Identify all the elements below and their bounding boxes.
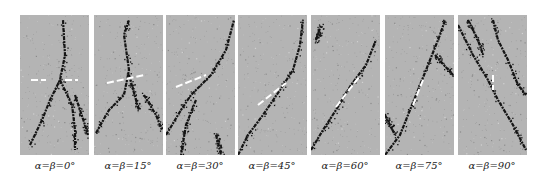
crack-fragment [32, 139, 33, 140]
speckle [222, 75, 223, 76]
crack-fragment [218, 135, 219, 136]
crack-fragment [251, 135, 252, 136]
speckle [192, 101, 193, 102]
speckle [437, 70, 438, 71]
speckle [282, 107, 283, 108]
speckle [348, 44, 349, 45]
crack-fragment [72, 126, 73, 127]
speckle [168, 151, 169, 152]
speckle [525, 56, 526, 57]
crack-fragment [112, 106, 113, 107]
crack-fragment [61, 35, 62, 36]
speckle [66, 86, 67, 87]
crack-fragment [136, 106, 137, 107]
crack-fragment [76, 98, 77, 99]
speckle [30, 38, 31, 39]
speckle [100, 59, 101, 60]
crack-fragment [447, 68, 448, 69]
speckle [417, 58, 418, 59]
speckle [270, 71, 271, 72]
crack-fragment [391, 121, 392, 122]
crack-fragment [289, 72, 290, 73]
speckle [376, 31, 377, 32]
speckle [512, 146, 513, 147]
speckle [389, 96, 390, 97]
crack-fragment [438, 39, 439, 40]
speckle [446, 131, 447, 132]
crack-fragment [443, 20, 444, 21]
speckle [434, 28, 435, 29]
speckle [354, 151, 355, 152]
speckle [397, 95, 398, 96]
speckle [316, 56, 317, 57]
speckle [273, 58, 274, 59]
crack-fragment [405, 130, 406, 131]
speckle [191, 37, 192, 38]
speckle [187, 63, 188, 64]
speckle [64, 108, 65, 109]
crack-fragment [283, 89, 284, 90]
crack-fragment [129, 28, 130, 29]
speckle [421, 25, 422, 26]
crack-fragment [408, 109, 409, 110]
speckle [498, 20, 499, 21]
speckle [353, 64, 354, 65]
crack-fragment [64, 66, 65, 67]
speckle [250, 36, 251, 37]
speckle [515, 93, 516, 94]
speckle [403, 112, 404, 113]
speckle [428, 101, 429, 102]
speckle [59, 40, 60, 41]
speckle [160, 67, 161, 68]
speckle [422, 109, 423, 110]
speckle [123, 138, 124, 139]
speckle [434, 39, 435, 40]
speckle [174, 54, 175, 55]
speckle [181, 138, 182, 139]
speckle [131, 26, 132, 27]
speckle [345, 107, 346, 108]
speckle [475, 95, 476, 96]
speckle [59, 100, 60, 101]
speckle [119, 67, 120, 68]
speckle [304, 129, 305, 130]
crack-fragment [72, 111, 73, 112]
speckle [499, 147, 500, 148]
crack-fragment [315, 41, 316, 42]
crack-fragment [63, 89, 64, 90]
crack-fragment [343, 102, 344, 103]
speckle [316, 60, 317, 61]
speckle [294, 118, 295, 119]
crack-fragment [58, 83, 59, 84]
crack-fragment [395, 135, 396, 136]
speckle [152, 28, 153, 29]
speckle [406, 97, 407, 98]
speckle [260, 40, 261, 41]
speckle [58, 121, 59, 122]
speckle [513, 132, 514, 133]
speckle [279, 25, 280, 26]
speckle [301, 144, 302, 145]
speckle [134, 149, 135, 150]
speckle [122, 139, 123, 140]
crack-fragment [138, 107, 139, 108]
speckle [525, 51, 526, 52]
speckle [271, 128, 272, 129]
speckle [119, 55, 120, 56]
speckle [396, 52, 397, 53]
speckle [279, 85, 280, 86]
crack-fragment [302, 34, 303, 35]
crack-fragment [167, 132, 168, 133]
speckle [487, 70, 488, 71]
speckle [181, 139, 182, 140]
speckle [388, 102, 389, 103]
speckle [433, 31, 434, 32]
speckle [254, 40, 255, 41]
crack-fragment [52, 98, 53, 99]
speckle [405, 113, 406, 114]
speckle [273, 85, 274, 86]
crack-fragment [69, 98, 70, 99]
speckle [121, 129, 122, 130]
crack-fragment [374, 42, 375, 43]
speckle [65, 16, 66, 17]
